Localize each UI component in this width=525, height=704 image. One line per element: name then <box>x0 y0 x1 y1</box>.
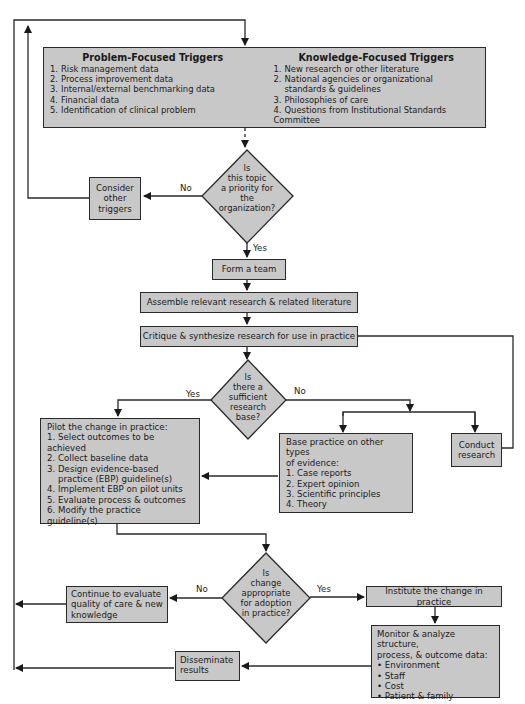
priority-yes-label: Yes <box>253 243 267 253</box>
problem-trigger-item: 5.Identification of clinical problem <box>50 105 256 115</box>
pilot-step-cont: practice (EBP) guideline(s) <box>47 474 193 484</box>
knowledge-trigger-item-cont: standards & guidelines <box>274 84 480 94</box>
pilot-step: 6.Modify the practice guideline(s) <box>47 505 193 526</box>
decision-priority-text: Is this topic a priority for the organiz… <box>207 163 287 213</box>
institute-change-box: Institute the change in practice <box>366 586 502 607</box>
monitor-bullet: • Environment <box>377 660 494 670</box>
knowledge-triggers-title: Knowledge-Focused Triggers <box>274 52 480 63</box>
pilot-step: 1.Select outcomes to be achieved <box>47 432 193 453</box>
pilot-step: 2.Collect baseline data <box>47 453 193 463</box>
monitor-bullet: • Staff <box>377 671 494 681</box>
decision-adoption-text: Is change appropriate for adoption in pr… <box>231 568 301 618</box>
problem-trigger-item: 3.Internal/external benchmarking data <box>50 84 256 94</box>
problem-triggers-title: Problem-Focused Triggers <box>50 52 256 63</box>
assemble-research-box: Assemble relevant research & related lit… <box>140 292 358 313</box>
pilot-step: 4.Implement EBP on pilot units <box>47 484 193 494</box>
adoption-no-label: No <box>196 584 208 594</box>
form-team-box: Form a team <box>212 259 286 280</box>
monitor-analyze-box: Monitor & analyze structure, process, & … <box>371 625 500 698</box>
monitor-bullet: • Patient & family <box>377 691 494 701</box>
monitor-bullet: • Cost <box>377 681 494 691</box>
ebp-flowchart: Problem-Focused Triggers 1.Risk manageme… <box>0 0 525 704</box>
research-yes-label: Yes <box>186 389 200 399</box>
adoption-yes-label: Yes <box>317 584 331 594</box>
research-no-label: No <box>294 386 306 396</box>
evidence-type: 1.Case reports <box>286 468 406 478</box>
knowledge-trigger-item: 2.National agencies or organizational <box>274 74 480 84</box>
problem-trigger-item: 1.Risk management data <box>50 64 256 74</box>
pilot-step: 3.Design evidence-based <box>47 464 193 474</box>
problem-trigger-item: 2.Process improvement data <box>50 74 256 84</box>
pilot-title: Pilot the change in practice: <box>47 422 193 432</box>
continue-evaluate-box: Continue to evaluate quality of care & n… <box>66 586 168 623</box>
consider-other-triggers-box: Consider other triggers <box>89 177 141 220</box>
disseminate-results-box: Disseminate results <box>175 651 240 681</box>
critique-synthesize-box: Critique & synthesize research for use i… <box>140 326 358 347</box>
conduct-research-box: Conduct research <box>451 433 502 467</box>
knowledge-trigger-item: 3.Philosophies of care <box>274 95 480 105</box>
evidence-type: 2.Expert opinion <box>286 479 406 489</box>
pilot-change-box: Pilot the change in practice: 1.Select o… <box>40 418 200 524</box>
problem-trigger-item: 4.Financial data <box>50 95 256 105</box>
problem-focused-triggers: Problem-Focused Triggers 1.Risk manageme… <box>50 52 262 123</box>
evidence-type: 3.Scientific principles <box>286 489 406 499</box>
knowledge-trigger-item: 4.Questions from Institutional Standards… <box>274 105 480 125</box>
knowledge-trigger-item: 1.New research or other literature <box>274 64 480 74</box>
base-practice-box: Base practice on other types of evidence… <box>279 433 413 513</box>
triggers-box: Problem-Focused Triggers 1.Risk manageme… <box>43 47 486 128</box>
knowledge-focused-triggers: Knowledge-Focused Triggers 1.New researc… <box>262 52 480 123</box>
decision-research-text: Is there a sufficient research base? <box>218 372 278 422</box>
pilot-step: 5.Evaluate process & outcomes <box>47 495 193 505</box>
priority-no-label: No <box>180 183 192 193</box>
evidence-type: 4.Theory <box>286 499 406 509</box>
